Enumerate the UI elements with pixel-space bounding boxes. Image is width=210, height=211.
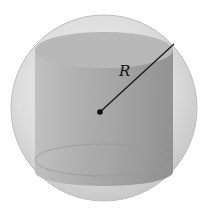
center-point [97, 109, 103, 115]
diagram-canvas [0, 0, 210, 211]
radius-label: R [119, 62, 130, 80]
